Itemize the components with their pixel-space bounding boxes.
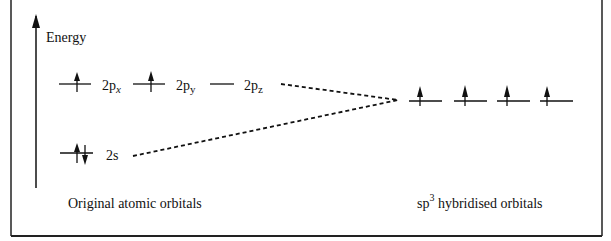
electron-up-icon xyxy=(544,86,550,97)
electron-up-icon xyxy=(504,85,510,97)
electron-up-icon xyxy=(74,143,80,152)
energy-axis: Energy xyxy=(32,14,86,188)
caption-original-orbitals: Original atomic orbitals xyxy=(68,196,202,211)
hybridisation-connectors xyxy=(133,84,398,156)
energy-label: Energy xyxy=(46,30,86,45)
hybrid-orbital-1 xyxy=(409,86,442,106)
orbital-2pz: 2pz xyxy=(210,78,263,95)
electron-up-icon xyxy=(74,72,80,81)
electron-down-icon xyxy=(82,155,88,165)
hybrid-orbital-4 xyxy=(540,86,573,106)
arrow-up-icon xyxy=(32,14,40,28)
electron-up-icon xyxy=(148,71,154,81)
orbital-label-2px: 2px xyxy=(102,78,121,95)
electron-up-icon xyxy=(417,86,423,97)
orbital-label-2s: 2s xyxy=(106,148,118,163)
hybrid-orbital-3 xyxy=(497,85,530,106)
orbital-2py: 2py xyxy=(133,71,196,95)
caption-hybrid-orbitals: sp3 hybridised orbitals xyxy=(417,192,543,211)
orbital-2s: 2s xyxy=(60,143,118,165)
orbital-2px: 2px xyxy=(59,72,121,95)
orbital-label-2pz: 2pz xyxy=(244,78,263,95)
hybrid-orbital-2 xyxy=(454,85,487,106)
hybrid-orbitals xyxy=(409,85,573,106)
electron-up-icon xyxy=(462,85,468,97)
orbital-label-2py: 2py xyxy=(176,78,196,95)
sp3-hybridisation-diagram: Energy 2px 2py 2pz 2s xyxy=(0,0,611,241)
